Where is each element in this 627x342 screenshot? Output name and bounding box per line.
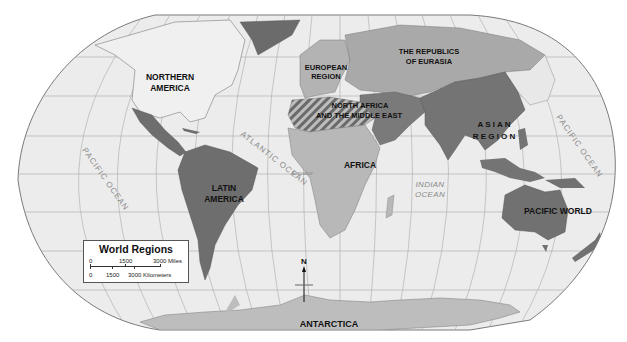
label-latin-america-2: AMERICA — [204, 194, 244, 204]
map-legend: World Regions 0 1500 3000 Miles 0 1500 3… — [83, 240, 189, 283]
label-antarctica: ANTARCTICA — [300, 319, 359, 329]
compass-n-label: N — [301, 257, 307, 266]
svg-text:EUROPEAN: EUROPEAN — [305, 63, 348, 72]
svg-text:A S I A N: A S I A N — [478, 120, 511, 129]
label-latin-america-1: LATIN — [212, 183, 236, 193]
svg-text:R E G I O N: R E G I O N — [473, 132, 516, 141]
svg-text:NORTHERN: NORTHERN — [146, 72, 194, 82]
svg-text:LATIN: LATIN — [212, 183, 236, 193]
label-pacific-world: PACIFIC WORLD — [524, 206, 592, 216]
scale-tick-0 — [90, 264, 91, 269]
svg-text:REGION: REGION — [311, 72, 341, 81]
label-asian-1: A S I A N — [478, 120, 511, 129]
label-indian-ocean-2: OCEAN — [415, 190, 445, 199]
svg-text:AMERICA: AMERICA — [150, 83, 190, 93]
scale-tick-mi-3000 — [160, 264, 161, 267]
label-north-africa-1: NORTH AFRICA — [332, 101, 389, 110]
label-indian-ocean-1: INDIAN — [416, 180, 445, 189]
label-asian-2: R E G I O N — [473, 132, 516, 141]
label-eurasia-2: OF EURASIA — [406, 57, 453, 66]
svg-text:NORTH AFRICA: NORTH AFRICA — [332, 101, 389, 110]
scale-tick-km-1500 — [112, 266, 113, 269]
legend-km-1500: 1500 — [106, 272, 119, 278]
legend-km-3000: 3000 Kilometers — [128, 272, 171, 278]
label-northern-america-2: AMERICA — [150, 83, 190, 93]
legend-miles-3000: 3000 Miles — [153, 258, 182, 264]
label-northern-america-1: NORTHERN — [146, 72, 194, 82]
label-equator: Equator — [292, 170, 313, 176]
label-africa: AFRICA — [344, 160, 376, 170]
svg-text:INDIAN: INDIAN — [416, 180, 445, 189]
label-european-2: REGION — [311, 72, 341, 81]
legend-title: World Regions — [84, 243, 188, 255]
label-eurasia-1: THE REPUBLICS — [399, 47, 459, 56]
svg-text:AND THE MIDDLE EAST: AND THE MIDDLE EAST — [316, 111, 403, 120]
svg-text:Equator: Equator — [292, 170, 313, 176]
svg-text:OF EURASIA: OF EURASIA — [406, 57, 453, 66]
svg-text:THE REPUBLICS: THE REPUBLICS — [399, 47, 459, 56]
label-north-africa-2: AND THE MIDDLE EAST — [316, 111, 403, 120]
scale-tick-km-3000 — [134, 266, 135, 269]
svg-text:OCEAN: OCEAN — [415, 190, 445, 199]
scale-tick-mi-1500 — [125, 264, 126, 267]
svg-text:AMERICA: AMERICA — [204, 194, 244, 204]
legend-km-0: 0 — [89, 272, 92, 278]
north-arrow: N — [294, 256, 314, 304]
label-european-1: EUROPEAN — [305, 63, 348, 72]
svg-text:ANTARCTICA: ANTARCTICA — [300, 319, 359, 329]
svg-text:PACIFIC WORLD: PACIFIC WORLD — [524, 206, 592, 216]
compass-icon: N — [294, 256, 314, 304]
svg-text:AFRICA: AFRICA — [344, 160, 376, 170]
